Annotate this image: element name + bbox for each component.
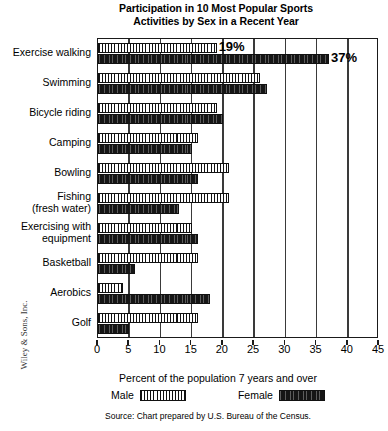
x-tick-label-15: 15 (178, 343, 204, 355)
legend-item-male: Male (111, 389, 186, 401)
category-label-line-2: equipment (0, 233, 91, 245)
x-tick-label-45: 45 (365, 343, 388, 355)
bar-female (98, 54, 329, 64)
bar-male (98, 253, 198, 263)
x-tick-label-10: 10 (146, 343, 172, 355)
category-label-line-1: Aerobics (50, 286, 91, 298)
x-tick-label-20: 20 (209, 343, 235, 355)
bar-group (98, 99, 377, 129)
bar-male (98, 133, 198, 143)
bar-group (98, 129, 377, 159)
category-axis-labels: Exercise walkingSwimmingBicycle ridingCa… (0, 38, 95, 338)
category-label: Camping (0, 137, 91, 149)
category-label-line-2: (fresh water) (0, 203, 91, 215)
bar-male (98, 103, 217, 113)
bar-male (98, 283, 123, 293)
category-label-line-1: Exercising with (21, 220, 91, 232)
bar-male (98, 43, 217, 53)
category-label-line-1: Fishing (57, 190, 91, 202)
legend-label-male: Male (111, 389, 134, 401)
bar-series-group: 19%37% (98, 39, 377, 337)
bar-group (98, 69, 377, 99)
bar-group (98, 219, 377, 249)
category-label: Exercise walking (0, 47, 91, 59)
category-label-line-1: Bicycle riding (29, 106, 91, 118)
chart-title: Participation in 10 Most Popular Sports … (60, 2, 372, 27)
bar-male (98, 193, 229, 203)
bar-female (98, 84, 267, 94)
plot-area: 19%37% (97, 38, 378, 338)
value-label-female: 37% (331, 51, 357, 64)
category-label: Swimming (0, 77, 91, 89)
bar-male (98, 313, 198, 323)
category-label: Bowling (0, 167, 91, 179)
bar-male (98, 73, 260, 83)
value-label-male: 19% (219, 40, 245, 53)
bar-female (98, 114, 223, 124)
category-label: Exercising withequipment (0, 221, 91, 244)
bar-female (98, 294, 210, 304)
bar-female (98, 204, 179, 214)
category-label-line-1: Bowling (54, 166, 91, 178)
category-label-line-1: Exercise walking (13, 46, 91, 58)
x-tick-label-40: 40 (334, 343, 360, 355)
bar-group (98, 249, 377, 279)
bar-male (98, 223, 192, 233)
category-label: Golf (0, 317, 91, 329)
bar-male (98, 163, 229, 173)
x-tick-label-30: 30 (271, 343, 297, 355)
source-note: Source: Chart prepared by U.S. Bureau of… (40, 411, 376, 421)
legend-label-female: Female (238, 389, 273, 401)
category-label-line-1: Swimming (43, 76, 91, 88)
bar-female (98, 174, 198, 184)
value-axis-ticks: 051015202530354045 (0, 340, 388, 356)
category-label: Fishing(fresh water) (0, 191, 91, 214)
bar-group (98, 309, 377, 339)
legend-swatch-female-icon (279, 390, 325, 401)
bar-female (98, 234, 198, 244)
x-axis-label: Percent of the population 7 years and ov… (60, 372, 376, 384)
x-tick-label-0: 0 (84, 343, 110, 355)
bar-group (98, 189, 377, 219)
chart-title-line-2: Activities by Sex in a Recent Year (60, 15, 372, 28)
x-tick-label-25: 25 (240, 343, 266, 355)
category-label: Basketball (0, 257, 91, 269)
x-tick-label-5: 5 (115, 343, 141, 355)
category-label: Bicycle riding (0, 107, 91, 119)
x-tick-label-35: 35 (303, 343, 329, 355)
chart-title-line-1: Participation in 10 Most Popular Sports (60, 2, 372, 15)
category-label-line-1: Basketball (43, 256, 91, 268)
legend-swatch-male-icon (140, 390, 186, 401)
chart-legend: Male Female (60, 389, 376, 401)
bar-group (98, 159, 377, 189)
legend-item-female: Female (238, 389, 325, 401)
category-label-line-1: Camping (49, 136, 91, 148)
bar-female (98, 264, 135, 274)
category-label-line-1: Golf (72, 316, 91, 328)
bar-female (98, 324, 129, 334)
bar-female (98, 144, 192, 154)
bar-group (98, 279, 377, 309)
category-label: Aerobics (0, 287, 91, 299)
